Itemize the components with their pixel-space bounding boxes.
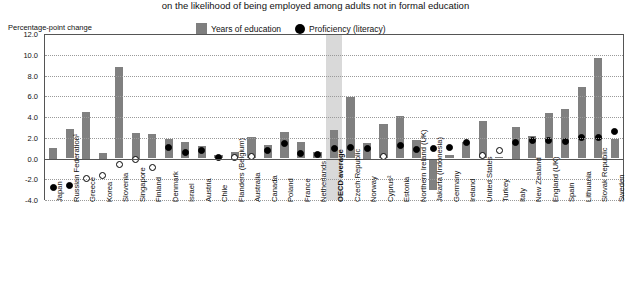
bar-years-of-education [49,148,57,158]
point-proficiency-literacy [116,161,123,168]
x-tick-label: Jakarta (Indonesia) [435,137,444,202]
point-proficiency-literacy [611,128,618,135]
x-tick-label: Cyprus² [386,175,395,202]
x-tick-label: Ireland [468,179,477,202]
x-tick-label: Turkey [501,179,510,202]
x-tick-label: France [303,178,312,202]
point-proficiency-literacy [149,164,156,171]
point-proficiency-literacy [364,145,371,152]
bar-years-of-education [578,87,586,159]
point-proficiency-literacy [99,172,106,179]
y-axis-unit-label: Percentage-point change [8,23,92,32]
x-tick-label: Singapore [138,167,147,202]
y-tick-label: 12.0 [23,30,38,39]
legend-circle-icon [295,24,305,34]
x-tick-label: Netherlands [319,161,328,202]
x-tick-label: OECD average [336,149,345,202]
x-tick-label: Austria [204,178,213,202]
x-tick-label: Israel [187,183,196,202]
point-proficiency-literacy [132,156,139,163]
x-tick-label: Estonia [402,177,411,202]
x-tick-label: Spain [567,183,576,202]
x-tick-label: Flanders (Belgium) [237,138,246,202]
gridline [45,138,623,139]
legend-square-icon [196,23,207,34]
gridline [45,117,623,118]
y-axis-tick-labels: 12.010.08.06.04.02.00.0-2.0-4.0 [0,34,42,200]
legend-label-proficiency: Proficiency (literacy) [309,24,386,34]
point-proficiency-literacy [314,151,321,158]
x-tick-label: Italy [518,188,527,202]
y-tick-label: 2.0 [28,133,38,142]
chart-title: on the likelihood of being employed amon… [0,0,631,11]
chart-root: on the likelihood of being employed amon… [0,0,631,303]
x-tick-label: Poland [286,178,295,202]
point-proficiency-literacy [215,154,222,161]
bar-years-of-education [545,113,553,159]
gridline [45,34,623,35]
x-tick-label: Japan [55,181,64,202]
point-proficiency-literacy [165,144,172,151]
x-tick-label: Norway [369,176,378,202]
bar-years-of-education [611,139,619,159]
x-tick-label: Czech Republic [353,149,362,202]
point-proficiency-literacy [182,149,189,156]
gridline [45,76,623,77]
x-axis-category-labels: JapanRussian Federation¹GreeceKoreaSlove… [44,202,622,302]
x-tick-label: New Zealand [534,157,543,202]
x-tick-label: Russian Federation¹ [72,134,81,202]
bar-years-of-education [82,112,90,159]
point-proficiency-literacy [496,147,503,154]
bar-years-of-education [115,67,123,158]
chart-legend: Years of education Proficiency (literacy… [196,23,386,34]
x-tick-label: Sweden [617,175,626,202]
y-tick-label: 6.0 [28,92,38,101]
x-tick-label: Lithuania [584,171,593,202]
bar-years-of-education [132,133,140,159]
x-tick-label: Denmark [171,171,180,202]
x-tick-label: United States [485,156,494,202]
x-tick-label: Australia [253,172,262,202]
y-tick-label: -2.0 [25,175,38,184]
x-tick-label: Canada [270,175,279,202]
point-proficiency-literacy [446,144,453,151]
gridline [45,96,623,97]
y-tick-label: 8.0 [28,71,38,80]
x-tick-label: England (UK) [551,156,560,202]
x-tick-label: Chile [220,185,229,202]
x-tick-label: Germany [452,171,461,202]
legend-label-years-of-education: Years of education [211,24,281,34]
y-tick-label: 4.0 [28,113,38,122]
x-tick-label: Slovenia [121,173,130,202]
y-tick-label: 10.0 [23,50,38,59]
x-tick-label: Northern Ireland (UK) [419,129,428,202]
bar-years-of-education [594,58,602,159]
x-tick-label: Greece [88,177,97,202]
y-tick-label: 0.0 [28,154,38,163]
legend-item-proficiency: Proficiency (literacy) [295,24,386,34]
gridline [45,55,623,56]
x-tick-label: Korea [105,182,114,202]
legend-item-years-of-education: Years of education [196,23,281,34]
x-tick-label: Slovak Republic [600,148,609,202]
y-tick-label: -4.0 [25,196,38,205]
x-tick-label: Finland [154,177,163,202]
point-proficiency-literacy [397,142,404,149]
